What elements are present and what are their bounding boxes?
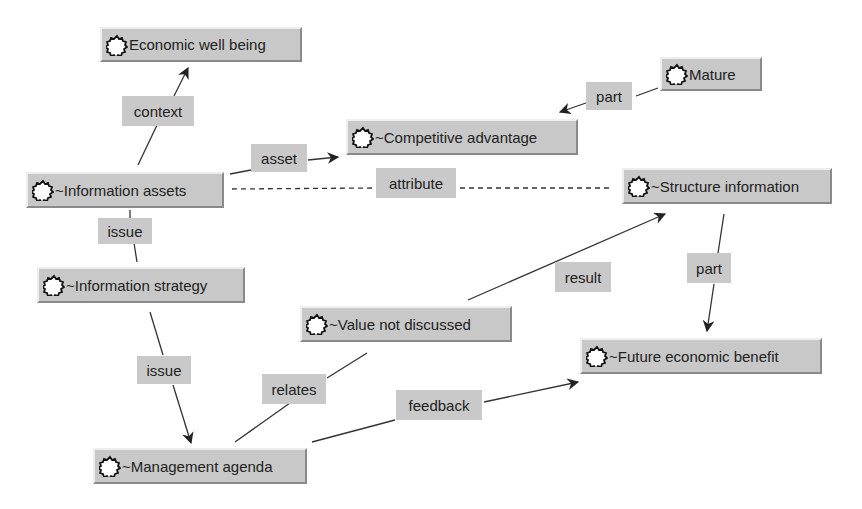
edge-part-mature[interactable]	[636, 88, 658, 96]
edge-attribute[interactable]	[232, 188, 374, 189]
edge-feedback[interactable]	[312, 420, 395, 442]
node-label: ~Management agenda	[122, 458, 273, 475]
edge-context[interactable]	[138, 123, 158, 165]
node-label: ~Structure information	[651, 178, 799, 195]
concept-gear-icon	[106, 34, 128, 56]
node-information-strategy[interactable]: ~Information strategy	[37, 267, 245, 303]
concept-map-canvas: Economic well being Mature ~Competitive …	[0, 0, 862, 509]
edge-label-attribute[interactable]: attribute	[376, 168, 456, 198]
node-label: ~Future economic benefit	[609, 348, 779, 365]
node-structure-information[interactable]: ~Structure information	[622, 168, 832, 204]
node-label: Mature	[689, 66, 736, 83]
node-label: ~Information strategy	[66, 277, 207, 294]
edge-context-head[interactable]	[174, 68, 188, 96]
concept-gear-icon	[43, 274, 65, 296]
concept-gear-icon	[586, 345, 608, 367]
edge-part-structure[interactable]	[718, 214, 724, 253]
edge-feedback-head[interactable]	[484, 382, 578, 402]
edge-label-part-mature[interactable]: part	[586, 82, 632, 110]
edge-label-relates[interactable]: relates	[262, 374, 326, 404]
concept-gear-icon	[666, 63, 688, 85]
edge-asset-head[interactable]	[308, 157, 338, 160]
edge-label-context[interactable]: context	[122, 96, 194, 126]
edge-label-result[interactable]: result	[555, 262, 611, 292]
edge-issue-1b[interactable]	[134, 243, 137, 262]
concept-gear-icon	[306, 313, 328, 335]
node-future-economic-benefit[interactable]: ~Future economic benefit	[580, 338, 822, 374]
edge-asset[interactable]	[230, 170, 251, 174]
edge-issue-2-head[interactable]	[173, 385, 191, 443]
concept-gear-icon	[99, 455, 121, 477]
concept-gear-icon	[352, 126, 374, 148]
edge-part-structure-head[interactable]	[707, 284, 714, 331]
edge-relates-2[interactable]	[327, 353, 367, 378]
edge-part-mature-head[interactable]	[560, 103, 586, 112]
concept-gear-icon	[32, 179, 54, 201]
edge-label-issue-2[interactable]: issue	[137, 356, 191, 384]
concept-gear-icon	[628, 175, 650, 197]
edge-label-asset[interactable]: asset	[251, 144, 307, 172]
node-label: ~Competitive advantage	[375, 129, 537, 146]
edge-label-issue-1[interactable]: issue	[98, 218, 152, 244]
node-label: ~Value not discussed	[329, 316, 471, 333]
node-value-not-discussed[interactable]: ~Value not discussed	[300, 306, 512, 342]
node-mature[interactable]: Mature	[660, 57, 762, 91]
edge-label-feedback[interactable]: feedback	[396, 390, 482, 420]
edge-relates[interactable]	[235, 403, 290, 442]
node-label: ~Information assets	[55, 182, 186, 199]
edge-issue-2[interactable]	[150, 312, 163, 355]
edge-label-part-structure[interactable]: part	[687, 253, 731, 283]
node-information-assets[interactable]: ~Information assets	[26, 172, 224, 208]
node-label: Economic well being	[129, 36, 266, 53]
node-economic-well-being[interactable]: Economic well being	[100, 27, 302, 62]
node-competitive-advantage[interactable]: ~Competitive advantage	[346, 119, 578, 155]
node-management-agenda[interactable]: ~Management agenda	[93, 448, 307, 484]
